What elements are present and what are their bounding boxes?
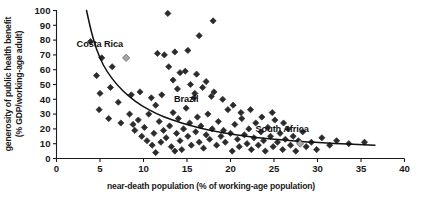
data-point-marker [180,126,186,132]
data-point-marker [154,50,160,56]
data-point-marker [141,124,147,130]
x-tick-label: 25 [269,163,280,174]
data-point-marker [200,84,206,90]
data-point-marker [230,102,236,108]
data-point-marker [246,126,252,132]
data-point-marker [182,68,188,74]
data-point-marker [165,10,171,16]
data-point-marker [218,133,224,139]
y-tick-label: 70 [40,49,51,60]
data-point-marker [126,111,132,117]
data-point-marker [146,111,152,117]
data-point-marker [194,114,200,120]
data-point-marker [213,142,219,148]
data-point-marker [149,142,155,148]
data-point-marker [290,133,296,139]
x-tick-label: 35 [356,163,367,174]
data-point-marker [282,136,288,142]
x-tick-label: 5 [97,163,103,174]
data-point-marker [106,115,112,121]
data-point-marker [205,111,211,117]
data-point-marker [130,121,136,127]
y-tick-label: 20 [40,123,51,134]
y-tick-label: 10 [40,138,51,149]
data-point-marker [314,147,320,153]
data-point-marker [287,142,293,148]
data-point-marker [270,144,276,150]
data-point-marker [174,86,180,92]
data-point-marker [167,123,173,129]
data-point-marker [161,52,167,58]
data-point-marker [177,138,183,144]
x-axis-title: near-death population (% of working-age … [0,181,422,191]
data-point-marker [236,144,242,150]
data-point-marker [137,89,143,95]
x-tick-label: 10 [138,163,149,174]
data-point-marker [158,139,164,145]
data-point-marker [187,81,193,87]
annotation-label: Costa Rica [77,39,124,49]
annotation-label: South Africa [256,124,309,134]
data-point-marker [159,92,165,98]
data-point-marker [210,18,216,24]
data-point-marker [225,107,231,113]
y-tick-label: 80 [40,34,51,45]
data-point-marker [153,149,159,155]
data-point-marker [259,114,265,120]
data-point-marker [170,110,176,116]
x-tick-label: 20 [225,163,236,174]
data-point-marker [247,107,253,113]
scatter-plot-canvas: 01020304050607080901000510152025303540 [0,0,422,200]
data-point-marker [135,117,141,123]
x-tick-label: 30 [312,163,323,174]
data-point-marker [139,133,145,139]
y-tick-label: 50 [40,79,51,90]
y-tick-label: 0 [45,153,50,164]
y-tick-label: 40 [40,94,51,105]
data-point-marker [220,96,226,102]
data-point-marker [280,147,286,153]
data-point-marker [239,115,245,121]
data-point-marker [160,127,166,133]
data-point-marker [303,144,309,150]
trend-line [87,11,375,146]
annotation-label: Brazil [174,94,198,104]
data-point-marker [97,90,103,96]
y-axis-title: generosity of public health benefit (% G… [3,4,33,164]
data-point-marker [132,127,138,133]
data-point-marker [196,33,202,39]
data-point-marker [203,78,209,84]
data-point-marker [163,135,169,141]
y-axis-title-line2: (% GDP/working-age adult) [14,4,25,164]
data-point-marker [185,133,191,139]
y-tick-label: 60 [40,64,51,75]
y-tick-label: 100 [34,5,50,16]
highlight-marker [123,54,130,61]
data-point-marker [166,64,172,70]
data-point-marker [118,120,124,126]
data-point-marker [96,107,102,113]
data-point-marker [193,129,199,135]
data-point-marker [262,148,268,154]
data-point-marker [144,138,150,144]
data-point-marker [183,105,189,111]
data-point-marker [215,118,221,124]
data-point-marker [232,121,238,127]
data-point-marker [272,117,278,123]
data-point-marker [244,141,250,147]
data-point-marker [238,110,244,116]
data-point-marker [156,118,162,124]
data-point-marker [319,135,325,141]
axes-layer [53,10,405,162]
data-point-marker [269,110,275,116]
data-point-marker [234,136,240,142]
data-point-marker [151,130,157,136]
data-point-marker [188,142,194,148]
trend-line-layer [87,11,375,146]
data-point-marker [172,49,178,55]
data-point-marker [148,95,154,101]
data-point-marker [153,102,159,108]
data-point-marker [229,148,235,154]
data-point-marker [107,84,113,90]
data-point-marker [193,71,199,77]
